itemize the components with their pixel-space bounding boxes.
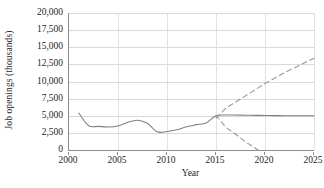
- plot-area: [68, 13, 314, 151]
- gridline: [314, 13, 315, 150]
- series-lower-projection: [216, 115, 258, 150]
- x-tick-label: 2000: [59, 156, 78, 166]
- y-tick-label: 10,000: [37, 77, 63, 87]
- x-axis-title: Year: [68, 168, 313, 178]
- x-tick-label: 2010: [157, 156, 176, 166]
- x-axis-tick-labels: 200020052010201520202025: [68, 152, 313, 166]
- y-tick-label: 20,000: [37, 8, 63, 18]
- series-lines: [69, 13, 314, 150]
- x-tick-label: 2015: [206, 156, 225, 166]
- y-tick-label: 2,500: [42, 128, 63, 138]
- job-openings-line-chart: Job openings (thousands) 02,5005,0007,50…: [0, 0, 324, 188]
- y-axis-title-text: Job openings (thousands): [4, 31, 14, 130]
- x-tick-label: 2005: [108, 156, 127, 166]
- y-tick-label: 12,500: [37, 60, 63, 70]
- x-tick-label: 2025: [304, 156, 323, 166]
- y-tick-label: 7,500: [42, 94, 63, 104]
- series-historical-and-flat-projection: [79, 113, 314, 132]
- x-tick-label: 2020: [255, 156, 274, 166]
- y-tick-label: 15,000: [37, 43, 63, 53]
- y-tick-label: 17,500: [37, 25, 63, 35]
- y-axis-tick-labels: 02,5005,0007,50010,00012,50015,00017,500…: [16, 0, 66, 160]
- y-tick-label: 5,000: [42, 111, 63, 121]
- series-upper-projection: [216, 58, 314, 118]
- y-tick-label: 0: [58, 145, 63, 155]
